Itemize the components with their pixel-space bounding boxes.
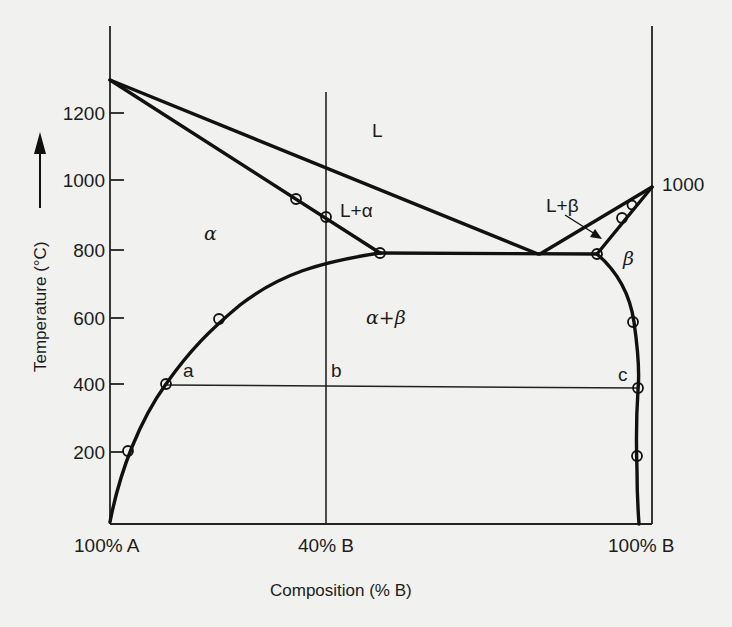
arrow-icon bbox=[590, 229, 602, 239]
point-b: b bbox=[331, 360, 342, 381]
tie-line-400 bbox=[166, 385, 637, 388]
y-tick-1200: 1200 bbox=[63, 103, 105, 124]
label-L-alpha: L+α bbox=[340, 200, 373, 221]
liquidus-a bbox=[110, 80, 538, 254]
phase-diagram: 1200 1000 800 600 400 200 Temperature (°… bbox=[0, 0, 732, 627]
x-label-100A: 100% A bbox=[74, 535, 140, 556]
solidus-alpha bbox=[110, 80, 380, 253]
x-label-100B: 100% B bbox=[608, 535, 675, 556]
solidus-beta bbox=[597, 187, 652, 254]
label-L: L bbox=[372, 120, 383, 141]
arrow-up-icon bbox=[34, 132, 46, 154]
point-a: a bbox=[183, 360, 194, 381]
solvus-alpha bbox=[110, 253, 380, 522]
y-ticks bbox=[110, 113, 124, 452]
y-tick-400: 400 bbox=[73, 374, 105, 395]
x-label-40B: 40% B bbox=[298, 535, 354, 556]
eutectic-line bbox=[380, 253, 597, 254]
y-tick-1000: 1000 bbox=[63, 170, 105, 191]
label-L-beta: L+β bbox=[546, 195, 579, 216]
label-alpha-beta: α+β bbox=[366, 306, 406, 328]
y-tick-200: 200 bbox=[73, 442, 105, 463]
label-beta: β bbox=[622, 247, 634, 269]
y-axis-title: Temperature (°C) bbox=[31, 241, 50, 372]
x-axis-title: Composition (% B) bbox=[270, 581, 412, 600]
label-alpha: α bbox=[204, 222, 217, 244]
right-axis-1000: 1000 bbox=[662, 174, 704, 195]
y-tick-800: 800 bbox=[73, 240, 105, 261]
point-c: c bbox=[618, 364, 628, 385]
y-tick-600: 600 bbox=[73, 308, 105, 329]
